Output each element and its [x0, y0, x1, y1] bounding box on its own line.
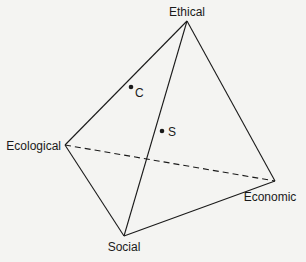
point-s-dot	[160, 129, 165, 134]
vertex-label-social: Social	[108, 240, 141, 254]
edge-ecological-social	[65, 145, 124, 236]
vertex-label-ecological: Ecological	[6, 139, 61, 153]
point-s-label: S	[168, 125, 176, 139]
point-c-dot	[129, 85, 134, 90]
tetrahedron-diagram: C S Ethical Ecological Economic Social	[0, 0, 306, 262]
point-c-label: C	[135, 86, 144, 100]
edge-ecological-economic-hidden	[65, 145, 275, 181]
edge-ethical-economic	[187, 21, 275, 181]
vertex-label-ethical: Ethical	[169, 5, 205, 19]
vertex-label-economic: Economic	[244, 190, 297, 204]
